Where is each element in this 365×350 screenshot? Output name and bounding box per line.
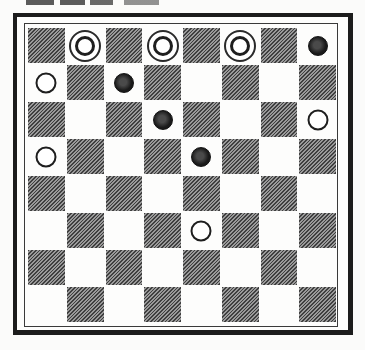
white-king-piece-icon[interactable] [69, 30, 101, 62]
checkers-board [27, 27, 337, 323]
dark-square-r2c0[interactable] [28, 102, 65, 137]
dark-square-r0c2[interactable] [106, 28, 143, 63]
dark-square-r1c7[interactable] [299, 65, 336, 100]
white-man-piece-icon[interactable] [36, 146, 57, 167]
light-square-r4c3[interactable] [143, 175, 182, 212]
black-man-piece-icon[interactable] [114, 73, 134, 93]
dark-square-r7c7[interactable] [299, 287, 336, 322]
light-square-r7c2[interactable] [105, 286, 144, 323]
white-man-piece-icon[interactable] [191, 220, 212, 241]
light-square-r2c3[interactable] [143, 101, 182, 138]
light-square-r7c6[interactable] [260, 286, 299, 323]
dark-square-r3c7[interactable] [299, 139, 336, 174]
light-square-r2c1[interactable] [66, 101, 105, 138]
white-man-piece-icon[interactable] [307, 109, 328, 130]
light-square-r6c3[interactable] [143, 249, 182, 286]
black-man-piece-icon[interactable] [153, 110, 173, 130]
dark-square-r2c6[interactable] [261, 102, 298, 137]
dark-square-r6c0[interactable] [28, 250, 65, 285]
dark-square-r0c4[interactable] [183, 28, 220, 63]
dark-square-r6c4[interactable] [183, 250, 220, 285]
dark-square-r1c5[interactable] [222, 65, 259, 100]
light-square-r5c0[interactable] [27, 212, 66, 249]
light-square-r6c1[interactable] [66, 249, 105, 286]
dark-square-r4c2[interactable] [106, 176, 143, 211]
dark-square-r3c5[interactable] [222, 139, 259, 174]
black-man-piece-icon[interactable] [191, 147, 211, 167]
dark-square-r2c2[interactable] [106, 102, 143, 137]
light-square-r4c7[interactable] [298, 175, 337, 212]
light-square-r0c1[interactable] [66, 27, 105, 64]
light-square-r0c7[interactable] [298, 27, 337, 64]
light-square-r5c2[interactable] [105, 212, 144, 249]
white-king-piece-icon[interactable] [224, 30, 256, 62]
light-square-r1c2[interactable] [105, 64, 144, 101]
light-square-r4c5[interactable] [221, 175, 260, 212]
cropped-caption [26, 0, 166, 5]
dark-square-r1c3[interactable] [144, 65, 181, 100]
light-square-r1c6[interactable] [260, 64, 299, 101]
dark-square-r5c7[interactable] [299, 213, 336, 248]
dark-square-r7c5[interactable] [222, 287, 259, 322]
dark-square-r4c6[interactable] [261, 176, 298, 211]
dark-square-r4c0[interactable] [28, 176, 65, 211]
dark-square-r6c6[interactable] [261, 250, 298, 285]
light-square-r2c5[interactable] [221, 101, 260, 138]
dark-square-r0c0[interactable] [28, 28, 65, 63]
dark-square-r3c1[interactable] [67, 139, 104, 174]
white-king-piece-icon[interactable] [147, 30, 179, 62]
dark-square-r3c3[interactable] [144, 139, 181, 174]
light-square-r5c4[interactable] [182, 212, 221, 249]
dark-square-r1c1[interactable] [67, 65, 104, 100]
light-square-r6c5[interactable] [221, 249, 260, 286]
light-square-r2c7[interactable] [298, 101, 337, 138]
light-square-r1c0[interactable] [27, 64, 66, 101]
light-square-r3c0[interactable] [27, 138, 66, 175]
light-square-r5c6[interactable] [260, 212, 299, 249]
dark-square-r2c4[interactable] [183, 102, 220, 137]
light-square-r3c6[interactable] [260, 138, 299, 175]
dark-square-r4c4[interactable] [183, 176, 220, 211]
dark-square-r5c3[interactable] [144, 213, 181, 248]
light-square-r0c3[interactable] [143, 27, 182, 64]
dark-square-r6c2[interactable] [106, 250, 143, 285]
light-square-r0c5[interactable] [221, 27, 260, 64]
dark-square-r0c6[interactable] [261, 28, 298, 63]
black-man-piece-icon[interactable] [308, 36, 328, 56]
light-square-r3c2[interactable] [105, 138, 144, 175]
white-man-piece-icon[interactable] [36, 72, 57, 93]
light-square-r1c4[interactable] [182, 64, 221, 101]
light-square-r7c4[interactable] [182, 286, 221, 323]
light-square-r4c1[interactable] [66, 175, 105, 212]
light-square-r6c7[interactable] [298, 249, 337, 286]
dark-square-r5c5[interactable] [222, 213, 259, 248]
light-square-r7c0[interactable] [27, 286, 66, 323]
dark-square-r7c1[interactable] [67, 287, 104, 322]
light-square-r3c4[interactable] [182, 138, 221, 175]
dark-square-r7c3[interactable] [144, 287, 181, 322]
dark-square-r5c1[interactable] [67, 213, 104, 248]
